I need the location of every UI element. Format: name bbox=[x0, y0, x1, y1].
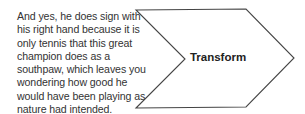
chevron-shape-icon bbox=[0, 0, 305, 114]
chevron-label: Transform bbox=[186, 51, 250, 63]
